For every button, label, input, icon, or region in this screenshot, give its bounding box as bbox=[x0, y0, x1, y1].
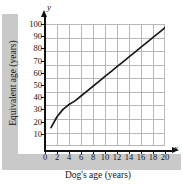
y-axis-tick-mark bbox=[41, 48, 45, 49]
x-axis-tick-mark bbox=[129, 150, 130, 154]
y-axis-tick-label: 100 bbox=[16, 20, 42, 29]
chart-figure: Equivalent age (years) Dog's age (years)… bbox=[0, 0, 183, 185]
x-axis-tick-mark bbox=[69, 150, 70, 154]
y-axis-tick-label: 60 bbox=[16, 69, 42, 78]
x-axis-tick-mark bbox=[141, 150, 142, 154]
y-axis-tick-label: 80 bbox=[16, 44, 42, 53]
x-axis-tick-mark bbox=[117, 150, 118, 154]
y-axis-variable-label: y bbox=[47, 2, 51, 12]
y-axis-tick-label: 40 bbox=[16, 93, 42, 102]
x-axis-tick-mark bbox=[165, 150, 166, 154]
y-axis-tick-mark bbox=[41, 134, 45, 135]
y-axis-tick-mark bbox=[41, 61, 45, 62]
x-axis-tick-label: 20 bbox=[157, 153, 173, 162]
data-curve bbox=[45, 24, 165, 146]
y-axis-tick-label: 20 bbox=[16, 118, 42, 127]
y-axis-tick-mark bbox=[41, 24, 45, 25]
x-axis-tick-mark bbox=[153, 150, 154, 154]
y-axis-tick-mark bbox=[41, 73, 45, 74]
y-axis-tick-label: 90 bbox=[16, 32, 42, 41]
y-axis-tick-label: 30 bbox=[16, 105, 42, 114]
x-axis-variable-label: x bbox=[174, 143, 178, 153]
x-axis-tick-mark bbox=[81, 150, 82, 154]
x-axis-tick-mark bbox=[105, 150, 106, 154]
y-axis-tick-mark bbox=[41, 109, 45, 110]
y-axis-tick-label: 10 bbox=[16, 130, 42, 139]
x-axis-tick-labels: 02468101214161820 bbox=[0, 153, 183, 167]
y-axis-tick-label: 70 bbox=[16, 57, 42, 66]
x-axis-title: Dog's age (years) bbox=[18, 170, 178, 180]
y-axis-tick-label: 50 bbox=[16, 81, 42, 90]
y-axis-tick-mark bbox=[41, 36, 45, 37]
y-axis-tick-mark bbox=[41, 85, 45, 86]
plot-area bbox=[45, 24, 165, 146]
y-axis-tick-mark bbox=[41, 97, 45, 98]
x-axis-tick-mark bbox=[45, 150, 46, 154]
y-axis-tick-mark bbox=[41, 122, 45, 123]
x-axis-tick-mark bbox=[57, 150, 58, 154]
x-axis-tick-mark bbox=[93, 150, 94, 154]
